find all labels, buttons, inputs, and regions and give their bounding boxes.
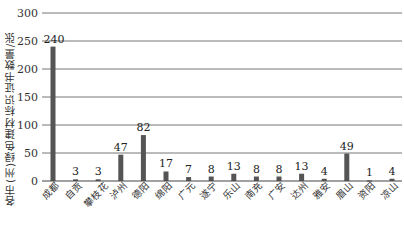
bars (51, 47, 395, 182)
x-tick-label: 攀枝花 (81, 180, 110, 209)
x-tick-label: 绵阳 (153, 180, 175, 202)
data-label: 8 (208, 163, 215, 176)
data-label: 8 (253, 163, 260, 176)
data-label: 13 (295, 160, 309, 173)
data-label: 13 (227, 160, 241, 173)
x-tick-label: 达州 (288, 180, 310, 202)
x-tick-label: 遂宁 (198, 180, 220, 202)
data-label: 4 (389, 165, 396, 178)
x-tick-label: 眉山 (333, 180, 355, 202)
data-label: 4 (321, 165, 328, 178)
data-label: 3 (95, 165, 102, 178)
y-tick-label: 100 (17, 119, 38, 132)
data-labels: 240334782177813881344914 (44, 33, 396, 180)
data-label: 17 (159, 157, 173, 170)
x-axis-labels: 成都自贡攀枝花泸州德阳绵阳广元遂宁乐山南充广安达州雅安眉山资阳凉山 (40, 180, 401, 209)
data-label: 82 (136, 121, 150, 134)
y-tick-label: 150 (17, 91, 38, 104)
data-label: 47 (114, 141, 128, 154)
data-label: 8 (276, 163, 283, 176)
bar (51, 47, 56, 181)
x-tick-label: 凉山 (379, 180, 401, 202)
y-tick-label: 50 (24, 147, 38, 160)
bar-chart: 050100150200250300 240334782177813881344… (0, 0, 404, 228)
bar (141, 135, 146, 181)
bar (344, 154, 349, 181)
y-axis-ticks: 050100150200250300 (17, 7, 38, 188)
y-tick-label: 300 (17, 7, 38, 20)
data-label: 240 (44, 33, 65, 46)
y-tick-label: 250 (17, 35, 38, 48)
data-label: 1 (366, 166, 373, 179)
x-tick-label: 成都 (40, 180, 62, 202)
y-tick-label: 200 (17, 63, 38, 76)
data-label: 3 (72, 165, 79, 178)
x-tick-label: 广元 (175, 180, 197, 202)
data-label: 49 (340, 140, 354, 153)
y-axis-label: 各市(州)绿色建材标识证书数量/张 (2, 14, 16, 224)
x-tick-label: 广安 (266, 180, 288, 202)
data-label: 7 (185, 163, 192, 176)
x-tick-label: 南充 (243, 180, 265, 202)
x-tick-label: 德阳 (130, 180, 152, 202)
x-tick-label: 雅安 (311, 180, 333, 202)
y-tick-label: 0 (31, 175, 38, 188)
x-tick-label: 资阳 (356, 180, 378, 202)
x-tick-label: 乐山 (220, 180, 242, 202)
x-tick-label: 自贡 (62, 180, 84, 202)
x-tick-label: 泸州 (107, 180, 129, 202)
bar (118, 155, 123, 181)
